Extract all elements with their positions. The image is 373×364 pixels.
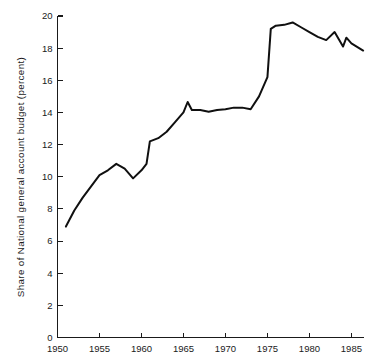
y-axis: 02468101214161820 bbox=[42, 10, 63, 343]
y-tick-label: 20 bbox=[42, 10, 53, 21]
y-tick-label: 10 bbox=[42, 171, 53, 182]
x-axis: 19501955196019651970197519801985 bbox=[47, 333, 362, 354]
y-tick-label: 6 bbox=[47, 235, 52, 246]
x-tick-label: 1970 bbox=[215, 343, 236, 354]
chart-container: Share of National general account budget… bbox=[0, 0, 373, 364]
series-group bbox=[66, 22, 363, 226]
x-tick-label: 1965 bbox=[173, 343, 194, 354]
y-tick-label: 2 bbox=[47, 300, 52, 311]
y-tick-label: 12 bbox=[42, 139, 53, 150]
x-tick-label: 1950 bbox=[47, 343, 68, 354]
line-chart: Share of National general account budget… bbox=[0, 0, 373, 364]
y-tick-label: 4 bbox=[47, 268, 52, 279]
axis-lines bbox=[58, 16, 365, 338]
y-tick-label: 0 bbox=[47, 332, 52, 343]
x-tick-label: 1980 bbox=[299, 343, 320, 354]
y-tick-label: 8 bbox=[47, 203, 52, 214]
x-tick-label: 1955 bbox=[89, 343, 110, 354]
data-line-series-0 bbox=[66, 22, 363, 226]
y-axis-title: Share of National general account budget… bbox=[15, 57, 26, 297]
x-tick-label: 1985 bbox=[341, 343, 362, 354]
y-tick-label: 16 bbox=[42, 75, 53, 86]
y-tick-label: 14 bbox=[42, 107, 53, 118]
y-tick-label: 18 bbox=[42, 43, 53, 54]
x-tick-label: 1975 bbox=[257, 343, 278, 354]
axis-frame bbox=[58, 16, 365, 338]
x-tick-label: 1960 bbox=[131, 343, 152, 354]
